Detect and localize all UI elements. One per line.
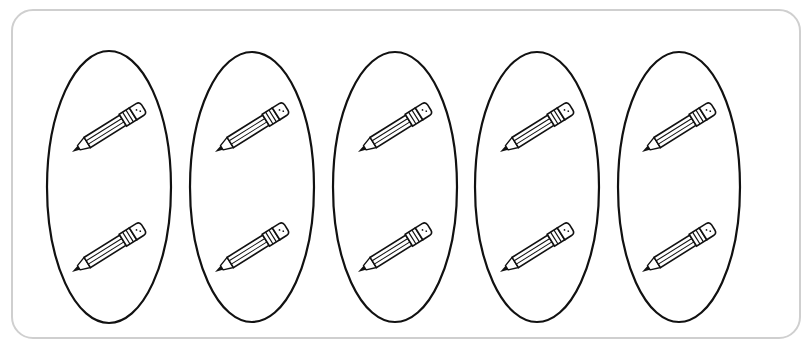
group-oval-3 [333,52,457,322]
pencil-icon [638,102,717,158]
pencil-icon [496,222,575,278]
group-oval-5 [618,52,740,322]
group-oval-1 [47,51,171,323]
pencil-icon [211,222,290,278]
pencil-icon [68,102,147,158]
pencil-icon [354,222,433,278]
pencil-icon [496,102,575,158]
pencil-icon [68,222,147,278]
pencil-icon [211,102,290,158]
group-oval-4 [475,52,599,322]
group-oval-2 [190,52,314,322]
pencil-icon [354,102,433,158]
pencil-icon [638,222,717,278]
